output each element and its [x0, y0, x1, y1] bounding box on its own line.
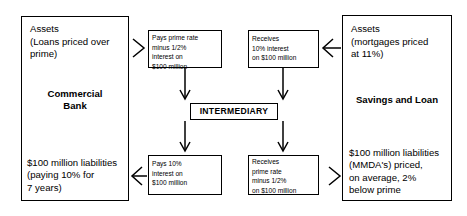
arrow-intermediary-to-bottomright — [278, 121, 288, 151]
left-liabilities: $100 million liabilities (paying 10% for… — [27, 157, 117, 194]
arrow-bottomright-to-sandl — [329, 167, 340, 185]
arrow-sandl-to-topright — [323, 39, 341, 57]
right-assets-detail: (mortgages priced at 11%) — [351, 36, 428, 61]
flow-text-bottom-left: Pays 10% interest on $100 million — [152, 159, 187, 188]
left-institution-name: Commercial Bank — [21, 88, 129, 113]
arrow-bank-to-topleft — [133, 39, 144, 57]
arrow-bottomleft-to-bank — [132, 167, 147, 185]
left-assets-detail: (Loans priced over prime) — [30, 36, 109, 61]
right-institution-name: Savings and Loan — [342, 94, 452, 106]
flow-text-top-left: Pays prime rate minus 1/2% interest on $… — [152, 33, 198, 71]
left-assets-heading: Assets — [30, 23, 59, 35]
right-liabilities: $100 million liabilities (MMDA's) priced… — [349, 147, 439, 196]
arrow-intermediary-to-bottomleft — [180, 121, 190, 151]
flow-text-top-right: Receives 10% interest on $100 million — [252, 34, 296, 63]
arrow-topright-to-intermediary — [278, 68, 288, 99]
arrow-topleft-to-intermediary — [180, 68, 190, 99]
flow-text-bottom-right: Receives prime rate minus 1/2% on $100 m… — [252, 157, 296, 195]
swap-flow-diagram: Assets (Loans priced over prime) Commerc… — [0, 0, 467, 216]
right-assets-heading: Assets — [351, 23, 380, 35]
intermediary-label: INTERMEDIARY — [190, 103, 278, 119]
